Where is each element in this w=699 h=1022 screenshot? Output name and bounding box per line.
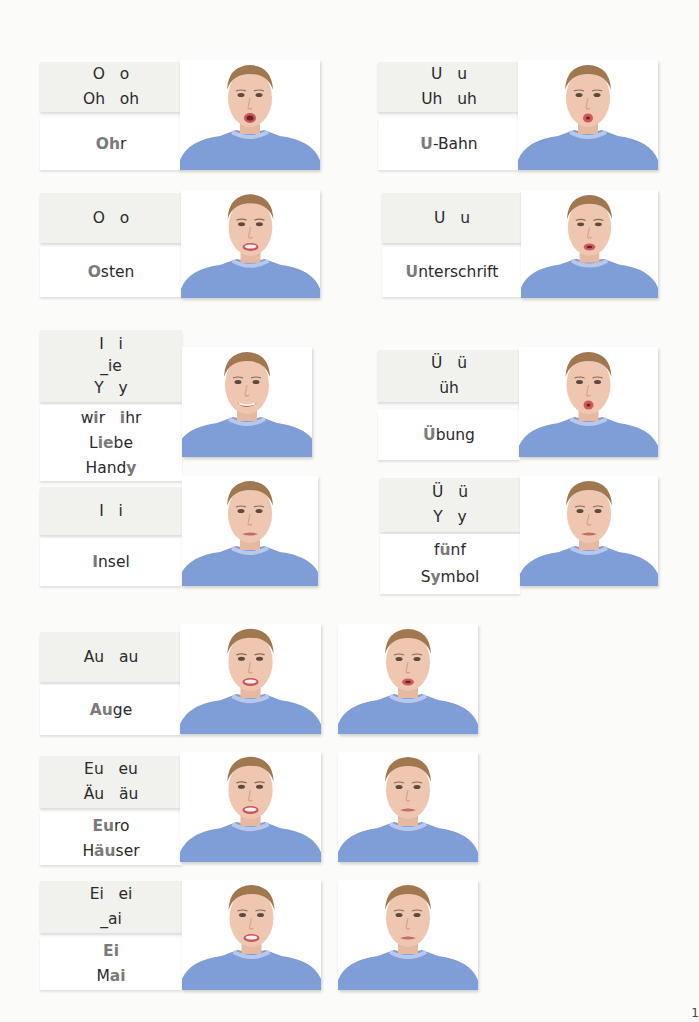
letter-card-i-short: I i [40,487,182,535]
portrait-illustration [180,624,321,734]
word-card-u-short: Unterschrift [382,247,522,297]
letter-line: Uh uh [421,87,477,112]
letter-line: üh [439,376,459,401]
portrait-illustration [338,752,478,862]
highlighted-letters: ü [440,541,451,559]
word-card-i-short: Insel [40,538,182,586]
highlighted-letters: y [126,459,136,477]
portrait-illustration [182,476,318,586]
letter-line: _ai [100,907,122,932]
portrait-illustration [182,880,321,990]
letter-card-ei: Ei ei _ai [40,881,182,933]
portrait-illustration [519,347,658,457]
word-card-uh: U-Bahn [378,118,520,170]
letter-line: Y y [94,377,127,399]
example-word: Häuser [82,839,139,864]
letter-line: Ü ü [432,480,468,505]
word-card-ue-short: fünfSymbol [380,534,520,594]
letter-card-ue-short: Ü ü Y y [380,478,520,532]
mouth-photo [180,60,320,170]
letter-line: Au au [84,645,139,670]
highlighted-letters: Ü [423,426,436,444]
highlighted-letters: y [431,568,441,586]
highlighted-letters: Eu [92,817,114,835]
letter-line: Eu eu [84,757,138,782]
letter-card-eu: Eu eu Äu äu [40,756,182,808]
word-card-eu: EuroHäuser [40,813,182,865]
portrait-illustration [181,190,320,298]
letter-card-uh: U u Uh uh [378,62,520,112]
mouth-photo [180,752,321,862]
letter-line: Oh oh [83,87,139,112]
letter-card-ie: I i _ie Y y [40,330,182,402]
example-word: Ei [103,939,119,964]
mouth-photo [338,880,478,990]
example-word: wir ihr [81,406,142,431]
mouth-photo [180,624,321,734]
mouth-photo [182,476,318,586]
mouth-photo [520,476,658,586]
highlighted-letters: U [420,135,433,153]
word-card-ei: EiMai [40,938,182,990]
word-card-au: Auge [40,685,182,735]
letter-line: Äu äu [84,782,139,807]
portrait-illustration [180,60,320,170]
page-number: 1 [691,1006,699,1020]
example-word: Mai [96,964,125,989]
mouth-photo [182,880,321,990]
example-word: Liebe [89,431,133,456]
example-word: Unterschrift [406,260,499,285]
letter-card-ueh: Ü ü üh [378,350,520,402]
example-word: Übung [423,423,475,448]
letter-line: O o [93,206,129,231]
mouth-photo [521,190,658,298]
letter-line: I i [99,499,123,524]
example-word: Osten [88,260,135,285]
example-word: Insel [92,550,130,575]
mouth-photo [519,347,658,457]
letter-line: O o [93,62,129,87]
example-word: Ohr [96,132,127,157]
letter-card-oh: O o Oh oh [40,62,182,112]
mouth-photo [182,347,312,457]
letter-line: _ie [100,355,122,377]
portrait-illustration [338,880,478,990]
letter-line: Ei ei [90,882,133,907]
letter-line: Y y [433,505,466,530]
mouth-photo [338,752,478,862]
highlighted-letters: Oh [96,135,120,153]
highlighted-letters: äu [94,842,116,860]
portrait-illustration [518,60,658,170]
example-word: fünf [434,537,466,564]
example-word: Euro [92,814,129,839]
highlighted-letters: ai [110,967,126,985]
highlighted-letters: ie [98,434,114,452]
word-card-ueh: Übung [378,410,520,460]
highlighted-letters: O [88,263,101,281]
mouth-photo [338,624,478,734]
letter-line: U u [431,62,467,87]
letter-line: Ü ü [431,351,467,376]
mouth-photo [181,190,320,298]
example-word: Symbol [421,564,480,591]
letter-line: I i [99,333,123,355]
letter-card-au: Au au [40,632,182,682]
highlighted-letters: U [406,263,419,281]
word-card-o-short: Osten [40,247,182,297]
portrait-illustration [180,752,321,862]
example-word: Auge [90,698,132,723]
highlighted-letters: Ei [103,942,119,960]
portrait-illustration [182,347,312,457]
portrait-illustration [521,190,658,298]
mouth-photo [518,60,658,170]
letter-line: U u [434,206,470,231]
letter-card-u-short: U u [382,193,522,243]
example-word: Handy [86,456,137,481]
portrait-illustration [520,476,658,586]
word-card-oh: Ohr [40,118,182,170]
portrait-illustration [338,624,478,734]
highlighted-letters: Au [90,701,113,719]
letter-card-o-short: O o [40,193,182,243]
example-word: U-Bahn [420,132,477,157]
word-card-ie: wir ihrLiebeHandy [40,405,182,481]
